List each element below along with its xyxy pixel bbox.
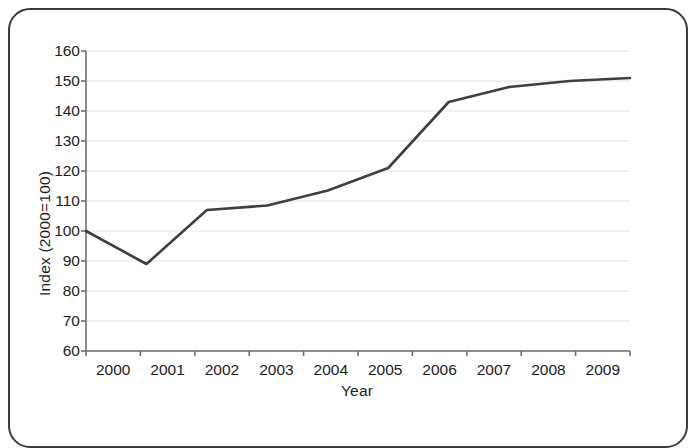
x-tick-label: 2009 [573, 361, 633, 379]
x-tick-label: 2005 [355, 361, 415, 379]
y-tick-label: 160 [36, 42, 80, 60]
y-tick-label: 150 [36, 72, 80, 90]
x-tick-label: 2006 [410, 361, 470, 379]
y-tick-label: 130 [36, 132, 80, 150]
y-tick-label: 70 [36, 312, 80, 330]
x-tick-label: 2002 [192, 361, 252, 379]
x-tick-label: 2004 [301, 361, 361, 379]
x-tick-label: 2003 [246, 361, 306, 379]
x-tick-label: 2007 [464, 361, 524, 379]
y-tick-label: 60 [36, 342, 80, 360]
x-tick-label: 2001 [138, 361, 198, 379]
y-tick-label: 140 [36, 102, 80, 120]
y-axis-title: Index (2000=100) [36, 171, 54, 296]
x-tick-label: 2000 [83, 361, 143, 379]
gridline-group [86, 51, 630, 351]
x-tick-label: 2008 [518, 361, 578, 379]
x-axis-title: Year [341, 382, 373, 400]
